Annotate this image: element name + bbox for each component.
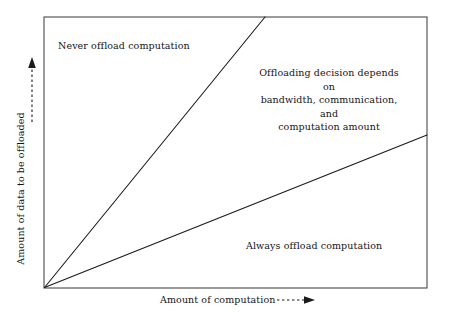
region-label-line-2: bandwidth, communication, and [256,93,402,120]
region-label-line-1: Offloading decision depends on [256,66,402,93]
offloading-decision-diagram: Never offload computation Offloading dec… [0,0,451,315]
y-axis-label: Amount of data to be offloaded [15,89,26,289]
region-label-offloading-decision: Offloading decision depends on bandwidth… [256,66,402,134]
region-label-never-offload: Never offload computation [58,39,190,53]
x-axis-dashed-arrow-icon [277,296,315,304]
region-label-always-offload: Always offload computation [246,239,382,253]
region-label-line-3: computation amount [256,120,402,134]
y-axis-dashed-arrow-icon [28,57,36,122]
x-axis-label: Amount of computation [160,294,275,305]
